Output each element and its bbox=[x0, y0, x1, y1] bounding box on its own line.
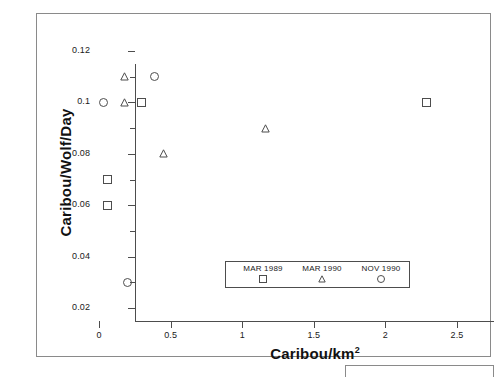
x-axis-tick bbox=[385, 321, 386, 328]
data-point-square bbox=[422, 98, 431, 107]
x-axis-tick-label: 2 bbox=[365, 330, 405, 340]
x-axis-tick-label: 1.5 bbox=[294, 330, 334, 340]
y-axis-minor-tick bbox=[130, 231, 135, 232]
x-axis-tick bbox=[242, 321, 243, 328]
x-axis-tick bbox=[314, 321, 315, 328]
bottom-right-partial-box bbox=[345, 365, 494, 377]
x-axis-tick-label: 2.5 bbox=[437, 330, 477, 340]
legend-entry: MAR 1990 bbox=[291, 264, 353, 283]
y-axis-tick bbox=[128, 205, 135, 206]
y-axis-tick bbox=[128, 308, 135, 309]
legend-label: NOV 1990 bbox=[350, 264, 412, 273]
legend-entry: NOV 1990 bbox=[350, 264, 412, 283]
data-point-triangle bbox=[120, 72, 129, 81]
data-point-square bbox=[103, 175, 112, 184]
data-point-square bbox=[137, 98, 146, 107]
legend-symbol-triangle bbox=[318, 275, 326, 283]
data-point-triangle bbox=[159, 149, 168, 158]
x-axis-title-superscript: 2 bbox=[355, 345, 360, 355]
x-axis-title: Caribou/km2 bbox=[215, 345, 415, 362]
legend-entry: MAR 1989 bbox=[232, 264, 294, 283]
x-axis-tick bbox=[171, 321, 172, 328]
data-point-circle bbox=[123, 278, 132, 287]
y-axis-title: Caribou/Wolf/Day bbox=[57, 83, 74, 263]
figure-frame: 0.120.10.080.060.040.02 00.511.522.5 Car… bbox=[36, 13, 491, 357]
y-axis-tick bbox=[128, 257, 135, 258]
data-point-triangle bbox=[120, 98, 129, 107]
legend: MAR 1989MAR 1990NOV 1990 bbox=[225, 261, 410, 288]
y-axis-minor-tick bbox=[130, 77, 135, 78]
x-axis-tick bbox=[99, 321, 100, 328]
y-axis-tick bbox=[128, 154, 135, 155]
x-axis-tick-label: 0 bbox=[79, 330, 119, 340]
y-axis-minor-tick bbox=[130, 128, 135, 129]
x-axis-tick-label: 0.5 bbox=[151, 330, 191, 340]
data-point-triangle bbox=[261, 124, 270, 133]
y-axis-tick bbox=[128, 51, 135, 52]
y-axis-tick-label: 0.02 bbox=[50, 302, 90, 312]
legend-symbol-square bbox=[259, 275, 267, 283]
legend-symbol-circle bbox=[377, 275, 385, 283]
x-axis-tick bbox=[457, 321, 458, 328]
y-axis-minor-tick bbox=[130, 180, 135, 181]
y-axis-line bbox=[135, 64, 136, 322]
x-axis-title-text: Caribou/km bbox=[270, 345, 355, 362]
y-axis-tick-label: 0.12 bbox=[50, 45, 90, 55]
data-point-square bbox=[103, 201, 112, 210]
data-point-circle bbox=[150, 72, 159, 81]
x-axis-tick-label: 1 bbox=[222, 330, 262, 340]
data-point-circle bbox=[99, 98, 108, 107]
legend-label: MAR 1989 bbox=[232, 264, 294, 273]
legend-label: MAR 1990 bbox=[291, 264, 353, 273]
